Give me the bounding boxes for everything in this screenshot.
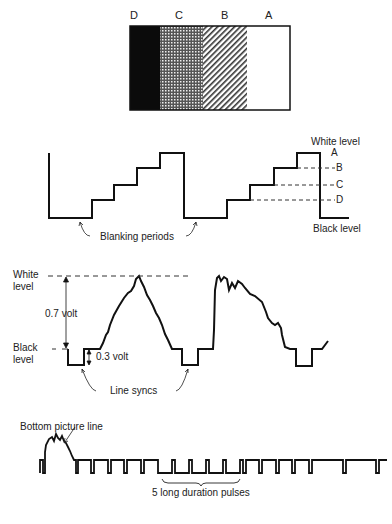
white-level-label: White level <box>311 137 360 147</box>
black-level-label: Black level <box>313 224 361 234</box>
long-pulses-brace <box>162 479 240 486</box>
level-label-a: A <box>331 148 338 158</box>
black-label-line2: level <box>13 355 34 365</box>
black-label-line1: Black <box>13 343 37 353</box>
field-sync-waveform <box>40 434 387 473</box>
line-syncs-label: Line syncs <box>110 386 157 396</box>
level-label-c: C <box>336 180 343 190</box>
bar-b-hatched <box>203 26 247 110</box>
video-amplitude-label: 0.7 volt <box>45 309 77 319</box>
blanking-periods-label: Blanking periods <box>100 232 174 242</box>
bar-d-black <box>130 26 160 110</box>
greyscale-bars <box>130 26 290 110</box>
diagram-canvas <box>0 0 392 524</box>
long-pulses-label: 5 long duration pulses <box>152 488 250 498</box>
level-label-d: D <box>336 195 343 205</box>
bar-a-white <box>247 26 290 110</box>
white-label-line2: level <box>13 282 34 292</box>
white-label-line1: White <box>13 270 39 280</box>
bottom-picture-line-label: Bottom picture line <box>20 422 103 432</box>
sync-amplitude-label: 0.3 volt <box>96 352 128 362</box>
bar-c-dotted <box>160 26 203 110</box>
level-label-b: B <box>336 163 343 173</box>
